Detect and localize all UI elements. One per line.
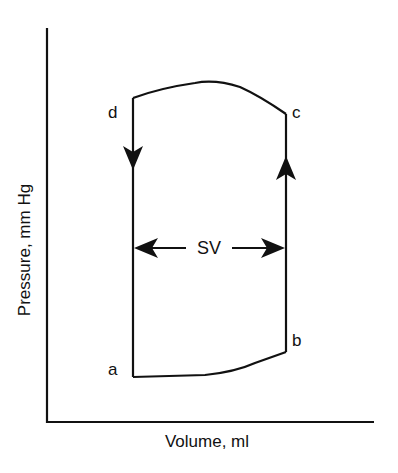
- x-axis-label: Volume, ml: [165, 432, 249, 452]
- y-axis-label: Pressure, mm Hg: [15, 184, 35, 316]
- point-label-b: b: [292, 332, 301, 349]
- point-label-d: d: [108, 104, 117, 121]
- point-label-a: a: [108, 361, 117, 378]
- point-label-c: c: [292, 104, 301, 121]
- stroke-volume-label: SV: [191, 238, 227, 259]
- filling-curve-a-b: [133, 352, 286, 377]
- pv-loop-diagram: [0, 0, 398, 473]
- ejection-curve-c-d: [133, 82, 286, 114]
